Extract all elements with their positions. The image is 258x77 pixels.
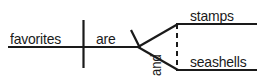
complement-first-label: stamps xyxy=(190,8,234,23)
upper-branch-line xyxy=(138,24,178,47)
verb-label: are xyxy=(96,31,116,46)
conjunction-label: and xyxy=(149,54,163,76)
complement-slant-stub-line xyxy=(131,30,140,48)
sentence-diagram: favorites are stamps seashells and xyxy=(0,0,258,77)
subject-label: favorites xyxy=(10,31,61,46)
complement-second-label: seashells xyxy=(190,54,246,69)
